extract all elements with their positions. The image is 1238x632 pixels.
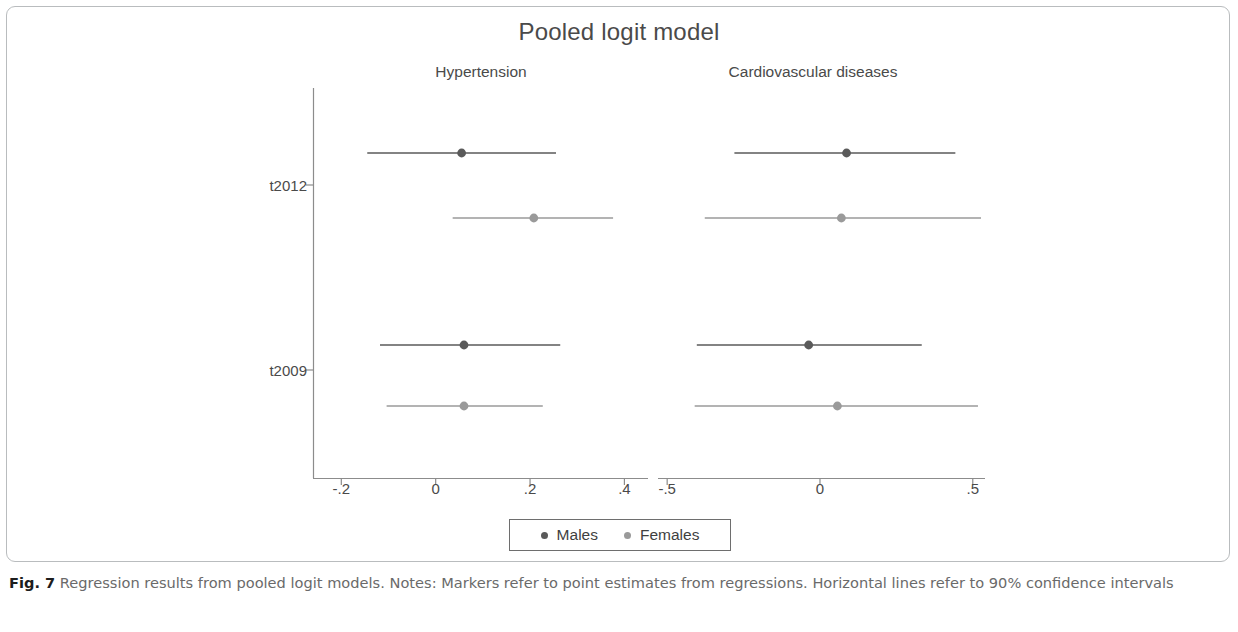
point-estimate-marker [837,214,846,223]
x-axis-tick-label: .2 [524,480,537,497]
point-estimate-marker [457,149,466,158]
forest-plot-svg [0,0,1238,563]
legend-item-males: Males [541,526,598,544]
point-estimate-marker [833,402,842,411]
legend-marker-males [541,532,548,539]
point-estimate-marker [842,149,851,158]
caption-text: Regression results from pooled logit mod… [55,574,1173,591]
figure-caption: Fig. 7 Regression results from pooled lo… [9,572,1229,593]
legend: Males Females [509,519,731,551]
point-estimate-marker [529,214,538,223]
y-axis-label-t2009: t2009 [247,362,307,379]
panel-title-hypertension: Hypertension [435,63,526,81]
x-axis-tick-label: .4 [618,480,631,497]
legend-item-females: Females [624,526,699,544]
point-estimate-marker [460,341,469,350]
panel-title-cardiovascular-diseases: Cardiovascular diseases [729,63,898,81]
chart-title: Pooled logit model [0,18,1238,46]
legend-label-males: Males [557,526,598,544]
caption-label: Fig. 7 [9,574,55,591]
chart-area: Pooled logit model Hypertension Cardiova… [0,0,1238,563]
x-axis-tick-label: .5 [967,480,980,497]
x-axis-tick-label: 0 [816,480,824,497]
legend-label-females: Females [640,526,699,544]
point-estimate-marker [804,341,813,350]
x-axis-tick-label: -.2 [333,480,351,497]
legend-marker-females [624,532,631,539]
x-axis-tick-label: -.5 [658,480,676,497]
x-axis-tick-label: 0 [432,480,440,497]
y-axis-label-t2012: t2012 [247,177,307,194]
point-estimate-marker [460,402,469,411]
